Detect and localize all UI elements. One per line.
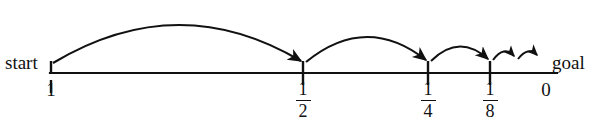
tick-label-one-half: 1 2 <box>281 80 325 121</box>
fraction-one-quarter: 1 4 <box>421 80 436 121</box>
fraction-one-eighth: 1 8 <box>483 80 498 121</box>
fraction-one-half-numerator: 1 <box>296 80 311 101</box>
tick-label-zero-value: 0 <box>541 80 551 99</box>
arc-quarter-to-eighth <box>431 46 488 61</box>
arc-sixteenth-to-next <box>518 51 537 59</box>
start-label: start <box>5 53 38 72</box>
tick-label-one-quarter: 1 4 <box>406 80 450 121</box>
fraction-one-quarter-denominator: 4 <box>421 101 436 121</box>
fraction-one-quarter-numerator: 1 <box>421 80 436 101</box>
tick-label-1: 1 <box>29 80 73 99</box>
tick-label-zero: 0 <box>524 80 568 99</box>
arc-one-half-to-quarter <box>306 37 426 62</box>
tick-label-1-value: 1 <box>46 80 56 99</box>
fraction-one-eighth-numerator: 1 <box>483 80 498 101</box>
goal-label: goal <box>552 53 585 72</box>
tick-label-one-eighth: 1 8 <box>468 80 512 121</box>
fraction-one-half-denominator: 2 <box>296 101 311 121</box>
arc-eighth-to-sixteenth <box>493 51 514 60</box>
zeno-dichotomy-figure: start goal 1 1 2 1 4 1 8 0 <box>0 0 598 132</box>
fraction-one-eighth-denominator: 8 <box>483 101 498 121</box>
arc-1-to-one-half <box>53 25 301 63</box>
fraction-one-half: 1 2 <box>296 80 311 121</box>
